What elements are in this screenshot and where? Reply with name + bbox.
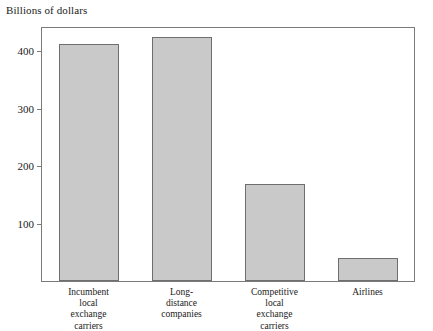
x-axis-category-label-line: exchange: [41, 309, 137, 320]
plot-area: 100200300400: [42, 28, 414, 281]
x-axis-category-label-line: Airlines: [320, 287, 416, 298]
bar: [152, 37, 212, 281]
plot-frame: 100200300400: [41, 27, 415, 282]
y-axis-tick: [37, 224, 42, 225]
y-axis-tick: [37, 51, 42, 52]
y-axis-tick-label: 100: [18, 218, 35, 229]
y-axis-tick: [37, 166, 42, 167]
y-axis-tick: [37, 109, 42, 110]
x-axis-category-label-line: local: [41, 298, 137, 309]
bar-chart-figure: Billions of dollars 100200300400 Incumbe…: [0, 0, 433, 331]
bar: [338, 258, 398, 281]
x-axis-category-label-line: carriers: [41, 321, 137, 331]
bar: [59, 44, 119, 281]
chart-axis-title: Billions of dollars: [6, 4, 87, 17]
y-axis-tick-label: 300: [18, 103, 35, 114]
x-axis-category-label: Long-distancecompanies: [134, 287, 230, 321]
x-axis-category-label-line: carriers: [227, 321, 323, 331]
x-axis-category-label: Incumbentlocalexchangecarriers: [41, 287, 137, 331]
x-axis-category-label-line: Incumbent: [41, 287, 137, 298]
x-axis-category-label: Airlines: [320, 287, 416, 298]
x-axis-category-label: Competitivelocalexchangecarriers: [227, 287, 323, 331]
x-axis-category-label-line: distance: [134, 298, 230, 309]
x-axis-category-label-line: Long-: [134, 287, 230, 298]
bar: [245, 184, 305, 281]
x-axis-category-label-line: companies: [134, 309, 230, 320]
x-axis-category-label-line: local: [227, 298, 323, 309]
y-axis-tick-label: 400: [18, 46, 35, 57]
x-axis-category-label-line: exchange: [227, 309, 323, 320]
x-axis-category-label-line: Competitive: [227, 287, 323, 298]
y-axis-tick-label: 200: [18, 161, 35, 172]
